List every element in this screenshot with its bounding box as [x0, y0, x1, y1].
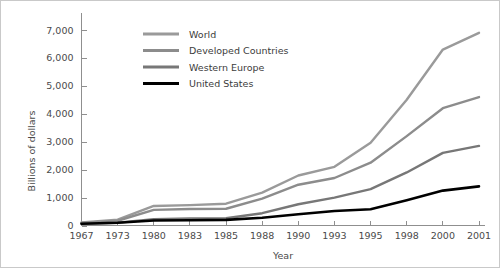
y-tick-label: 3,000	[46, 136, 73, 147]
chart-legend: WorldDeveloped CountriesWestern EuropeUn…	[143, 29, 289, 90]
x-tick-label: 1990	[286, 230, 310, 241]
series-lines	[82, 33, 480, 224]
y-tick-label: 7,000	[46, 25, 73, 36]
legend-label-united-states: United States	[189, 78, 253, 89]
y-tick-label: 1,000	[46, 192, 73, 203]
y-tick-label: 4,000	[46, 108, 73, 119]
x-axis-ticks: 1967197319801983198519881990199319951998…	[69, 221, 491, 241]
x-tick-label: 2000	[431, 230, 455, 241]
x-tick-label: 1995	[358, 230, 382, 241]
x-tick-label: 1985	[214, 230, 238, 241]
y-tick-label: 6,000	[46, 52, 73, 63]
x-tick-label: 1993	[322, 230, 346, 241]
x-tick-label: 1998	[395, 230, 419, 241]
chart-figure: 01,0002,0003,0004,0005,0006,0007,000 196…	[0, 0, 500, 268]
x-tick-label: 1973	[106, 230, 130, 241]
y-axis-title: Billions of dollars	[26, 111, 37, 192]
y-axis-ticks: 01,0002,0003,0004,0005,0006,0007,000	[46, 25, 86, 232]
legend-label-western-europe: Western Europe	[189, 62, 265, 73]
x-tick-label: 1988	[250, 230, 274, 241]
line-chart: 01,0002,0003,0004,0005,0006,0007,000 196…	[1, 1, 500, 268]
y-tick-label: 2,000	[46, 164, 73, 175]
x-axis-title: Year	[272, 250, 293, 261]
series-line-developed-countries	[82, 97, 480, 223]
legend-label-developed-countries: Developed Countries	[189, 45, 289, 56]
y-tick-label: 5,000	[46, 80, 73, 91]
x-tick-label: 1980	[142, 230, 166, 241]
x-tick-label: 1967	[69, 230, 93, 241]
x-tick-label: 2001	[467, 230, 491, 241]
legend-label-world: World	[189, 29, 216, 40]
x-tick-label: 1983	[178, 230, 202, 241]
